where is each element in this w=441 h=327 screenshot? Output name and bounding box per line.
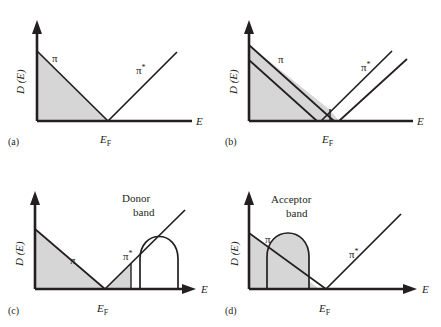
x-axis-label-c: E — [200, 283, 208, 295]
y-axis-arrow-d — [244, 191, 254, 205]
y-axis-arrow-b — [244, 20, 254, 34]
y-axis-label-d: D (E) — [228, 241, 241, 267]
panel-tag-a: (a) — [8, 136, 19, 148]
y-axis-arrow-c — [30, 191, 40, 205]
x-axis-label-d: E — [421, 283, 429, 295]
fermi-level-label-d: EF — [318, 302, 331, 317]
x-axis-arrow-c — [182, 284, 196, 294]
x-axis-label-b: E — [416, 115, 424, 127]
panel-tag-c: (c) — [8, 305, 19, 317]
pi-star-band-line-c — [105, 210, 185, 289]
pi-band-label-d: π — [265, 233, 271, 245]
y-axis-label-a: D (E) — [14, 69, 27, 95]
y-axis-label-b: D (E) — [227, 69, 240, 95]
acceptor-band-title-line1-d: Acceptor — [271, 193, 312, 205]
panel-a-intrinsic: D (E) E EF π π* (a) — [0, 4, 220, 164]
fermi-level-label-a: EF — [99, 133, 112, 148]
acceptor-band-title-line2-d: band — [286, 207, 308, 219]
pi-band-label-a: π — [52, 52, 58, 64]
pi-star-band-label-b: π* — [361, 60, 371, 73]
pi-star-band-right-line-b — [339, 59, 407, 121]
pi-band-label-b: π — [278, 53, 284, 65]
pi-band-label-c: π — [70, 254, 76, 266]
donor-band-title-line1-c: Donor — [122, 192, 150, 204]
donor-band-title-line2-c: band — [133, 206, 155, 218]
panel-b-gap-opened: D (E) E EF π π* (b) — [221, 4, 441, 164]
x-axis-label-a: E — [195, 115, 203, 127]
pi-star-band-line-d — [326, 214, 401, 289]
donor-band-curve-c — [140, 237, 178, 290]
panel-tag-b: (b) — [225, 136, 237, 148]
fermi-level-label-b: EF — [321, 133, 334, 148]
pi-star-band-label-c: π* — [123, 249, 133, 262]
x-axis-arrow-d — [403, 284, 417, 294]
pi-star-band-label-a: π* — [136, 63, 146, 76]
figure-canvas: D (E) E EF π π* (a) — [0, 0, 441, 327]
panel-tag-d: (d) — [225, 305, 237, 317]
pi-star-band-left-line-b — [321, 51, 392, 121]
y-axis-arrow-a — [32, 20, 42, 34]
panel-c-donor-doped: D (E) E EF π π* Donor band (c) — [0, 167, 220, 327]
fermi-level-label-c: EF — [96, 302, 109, 317]
y-axis-label-c: D (E) — [13, 241, 26, 267]
panel-d-acceptor-doped: D (E) E EF π π* Acceptor band (d) — [221, 167, 441, 327]
